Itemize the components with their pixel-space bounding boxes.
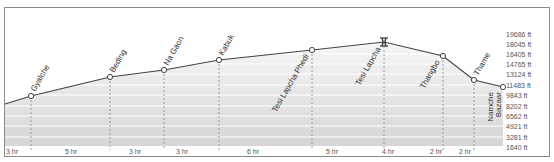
ytick: 4921 ft: [506, 123, 527, 130]
waypoint-label-na-gaon: Na Gaon: [162, 35, 186, 67]
ytick: 18045 ft: [506, 41, 531, 48]
segment-time: 5 hr: [326, 148, 339, 155]
elevation-profile-chart: Gyalche Beding Na Gaon Kabuk Tesi Lapcha…: [0, 0, 554, 162]
segment-time: 5 hr: [65, 148, 78, 155]
ytick: 8202 ft: [506, 103, 527, 110]
waypoint-marker-gyalche[interactable]: [28, 93, 33, 98]
segment-time: 3 hr: [129, 148, 142, 155]
ytick: 11483 ft: [506, 82, 531, 89]
segment-time: 2 hr: [459, 148, 472, 155]
ytick: 6562 ft: [506, 113, 527, 120]
waypoint-label-namche-line2: Bazaar: [494, 92, 503, 118]
segment-time: 6 hr: [247, 148, 260, 155]
waypoint-label-gyalche: Gyalche: [29, 63, 52, 93]
waypoint-marker-na-gaon[interactable]: [161, 67, 166, 72]
ytick: 14765 ft: [506, 61, 531, 68]
waypoint-marker-kabuk[interactable]: [216, 57, 221, 62]
ytick: 16405 ft: [506, 51, 531, 58]
waypoint-marker-namche-bazaar[interactable]: [500, 84, 505, 89]
ytick: 9843 ft: [506, 92, 527, 99]
waypoint-marker-thame[interactable]: [471, 77, 476, 82]
segment-time: 3 hr: [6, 148, 19, 155]
ytick: 19686 ft: [506, 31, 531, 38]
waypoint-marker-thangbo[interactable]: [440, 53, 445, 58]
waypoint-marker-beding[interactable]: [107, 74, 112, 79]
waypoint-label-thame: Thame: [472, 50, 493, 77]
segment-time: 3 hr: [176, 148, 189, 155]
elevation-area: [5, 30, 503, 146]
segment-time: 2 hr: [430, 148, 443, 155]
ytick: 1640 ft: [506, 144, 527, 151]
elevation-axis: 19686 ft 18045 ft 16405 ft 14765 ft 1312…: [506, 31, 531, 151]
segment-time: 4 hr: [382, 148, 395, 155]
waypoint-label-kabuk: Kabuk: [217, 32, 237, 57]
waypoint-label-beding: Beding: [108, 48, 128, 74]
ytick: 3281 ft: [506, 134, 527, 141]
ytick: 13124 ft: [506, 71, 531, 78]
waypoint-marker-tesi-lapcha-phedi[interactable]: [309, 47, 314, 52]
segment-times: 3 hr 5 hr 3 hr 3 hr 6 hr 5 hr 4 hr 2 hr …: [6, 148, 472, 155]
